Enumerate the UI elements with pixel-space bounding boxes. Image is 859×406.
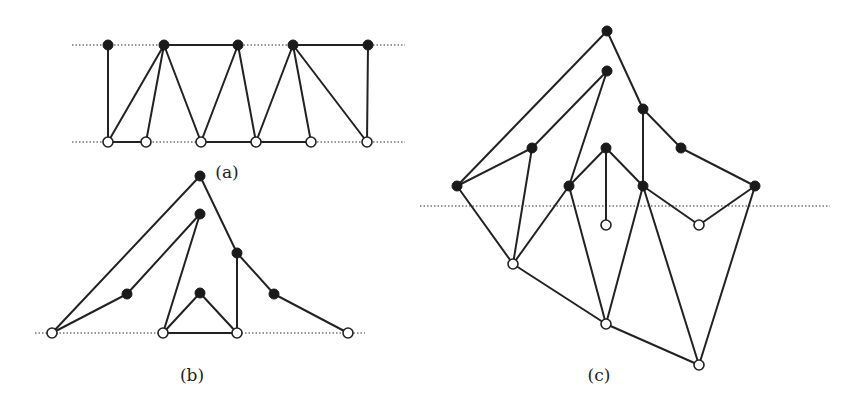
edge-I-N	[606, 186, 643, 324]
filled-node-A	[602, 26, 612, 36]
edge-t3-b4	[238, 45, 256, 142]
open-node-b4	[251, 137, 261, 147]
panel-b: (b)	[35, 171, 365, 385]
open-node-b6	[362, 137, 372, 147]
edge-C-F	[643, 109, 681, 148]
open-node-b1	[103, 137, 113, 147]
panel-b-label: (b)	[180, 365, 204, 385]
filled-node-t5	[363, 40, 373, 50]
edge-A-G	[457, 31, 607, 186]
filled-node-B	[602, 66, 612, 76]
panel-c: (c)	[420, 26, 830, 385]
edge-r-v	[237, 253, 274, 294]
edge-p-r	[200, 176, 237, 253]
filled-node-t2	[159, 40, 169, 50]
open-node-w4	[343, 328, 353, 338]
filled-node-v	[269, 289, 279, 299]
edge-s-q	[127, 214, 200, 294]
filled-node-s	[122, 289, 132, 299]
filled-node-E	[601, 143, 611, 153]
filled-node-H	[564, 181, 574, 191]
edge-t2-b3	[164, 45, 201, 142]
filled-node-q	[195, 209, 205, 219]
edge-q-w2	[163, 214, 200, 333]
open-node-w3	[232, 328, 242, 338]
filled-node-C	[638, 104, 648, 114]
edge-w1-p	[52, 176, 200, 333]
filled-node-u	[195, 288, 205, 298]
edge-w1-s	[52, 294, 127, 333]
open-node-b5	[306, 137, 316, 147]
panel-a-edges	[108, 45, 368, 142]
edge-F-J	[681, 148, 755, 186]
panel-a-nodes	[103, 40, 373, 147]
edge-t4-b4	[256, 45, 293, 142]
filled-node-J	[750, 181, 760, 191]
panel-a: (a)	[72, 40, 405, 182]
panel-c-edges	[457, 31, 755, 365]
filled-node-p	[195, 171, 205, 181]
open-node-L	[694, 220, 704, 230]
filled-node-F	[676, 143, 686, 153]
filled-node-D	[527, 143, 537, 153]
filled-node-r	[232, 248, 242, 258]
filled-node-t3	[233, 40, 243, 50]
panel-a-label: (a)	[215, 162, 238, 182]
filled-node-t1	[103, 40, 113, 50]
open-node-O	[694, 360, 704, 370]
edge-u-w3	[200, 293, 237, 333]
edge-B-H	[569, 71, 607, 186]
open-node-N	[601, 319, 611, 329]
graph-figure: (a) (b) (c)	[0, 0, 859, 406]
panel-b-edges	[52, 176, 348, 333]
edge-t4-b5	[293, 45, 311, 142]
edge-E-I	[606, 148, 643, 186]
filled-node-I	[638, 181, 648, 191]
edge-t5-b6	[367, 45, 368, 142]
edge-t3-b3	[201, 45, 238, 142]
edge-B-D	[532, 71, 607, 148]
edge-N-O	[606, 324, 699, 365]
open-node-w1	[47, 328, 57, 338]
filled-node-t4	[288, 40, 298, 50]
edge-D-G	[457, 148, 532, 186]
edge-v-w4	[274, 294, 348, 333]
edge-H-M	[513, 186, 569, 264]
open-node-b2	[141, 137, 151, 147]
edge-J-O	[699, 186, 755, 365]
edge-G-M	[457, 186, 513, 264]
panel-b-nodes	[47, 171, 353, 338]
open-node-M	[508, 259, 518, 269]
open-node-w2	[158, 328, 168, 338]
edge-t4-b6	[293, 45, 367, 142]
panel-c-label: (c)	[588, 365, 611, 385]
edge-I-O	[643, 186, 699, 365]
filled-node-G	[452, 181, 462, 191]
open-node-K	[601, 220, 611, 230]
open-node-b3	[196, 137, 206, 147]
